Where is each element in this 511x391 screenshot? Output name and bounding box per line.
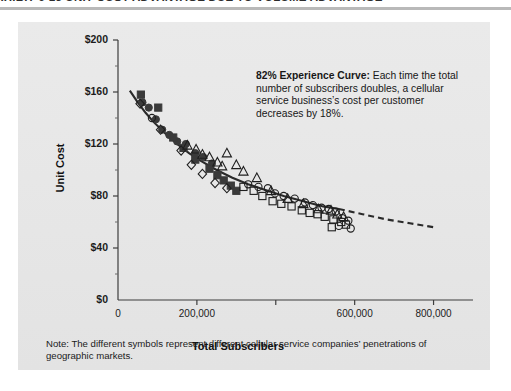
y-axis-tick-label: $120	[62, 137, 108, 149]
figure-footnote: Note: The different symbols represent di…	[46, 338, 470, 363]
data-point-open-square	[288, 203, 295, 210]
data-point-filled-square	[206, 165, 213, 172]
data-point-filled-circle	[145, 104, 152, 111]
x-axis-tick-label: 800,000	[399, 308, 469, 319]
experience-curve-callout: 82% Experience Curve: Each time the tota…	[256, 70, 461, 120]
data-point-filled-square	[155, 104, 162, 111]
x-axis-tick-label: 0	[83, 308, 153, 319]
data-point-open-square	[306, 209, 313, 216]
series-open-triangle	[183, 141, 348, 221]
scatter-plot-svg	[18, 22, 490, 322]
y-axis-tick-label: $200	[62, 33, 108, 45]
y-axis-tick-label: $0	[62, 293, 108, 305]
plot-area	[18, 22, 490, 322]
series-open-circle	[148, 114, 354, 232]
exhibit-title: EXHIBIT 6-13 UNIT COST ADVANTAGE DUE TO …	[0, 0, 383, 3]
data-point-open-square	[314, 211, 321, 218]
x-axis-tick-label: 200,000	[162, 308, 232, 319]
data-point-open-diamond	[198, 169, 206, 178]
x-axis-tick-label: 600,000	[320, 308, 390, 319]
data-point-filled-square	[137, 91, 144, 98]
title-divider	[0, 7, 511, 10]
data-point-open-triangle	[222, 148, 231, 157]
y-axis-tick-label: $40	[62, 241, 108, 253]
data-point-open-square	[259, 192, 266, 199]
data-point-open-diamond	[211, 178, 219, 187]
experience-curve-dashed	[339, 209, 434, 227]
figure-panel: Unit Cost Total Subscribers 82% Experien…	[18, 22, 490, 370]
callout-lead: 82% Experience Curve:	[256, 70, 370, 81]
y-axis-tick-label: $160	[62, 85, 108, 97]
data-point-open-triangle	[252, 173, 261, 182]
data-point-filled-square	[170, 134, 177, 141]
data-point-open-square	[250, 187, 257, 194]
data-point-open-square	[328, 224, 335, 231]
data-point-open-square	[269, 198, 276, 205]
data-point-filled-square	[233, 187, 240, 194]
data-point-filled-square	[220, 177, 227, 184]
series-filled-circle	[139, 99, 216, 167]
data-point-open-triangle	[232, 160, 241, 169]
y-axis-tick-label: $80	[62, 189, 108, 201]
y-axis-label: Unit Cost	[54, 118, 66, 218]
